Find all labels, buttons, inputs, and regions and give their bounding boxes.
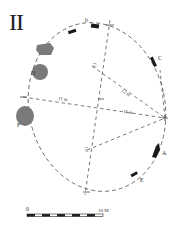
svg-text:E1: E1 [84, 146, 89, 153]
plan-drawing: b C D F A E 11 m 11 m 12 m E1 E1 0 10 M [0, 0, 181, 227]
stone-h [68, 29, 77, 34]
circle-outline [13, 10, 181, 205]
svg-text:C: C [158, 55, 162, 61]
svg-text:11 m: 11 m [123, 109, 133, 115]
svg-text:D: D [31, 70, 36, 76]
stone-g [36, 43, 54, 55]
slabs [68, 23, 160, 177]
stone-b [91, 23, 99, 28]
svg-text:11 m: 11 m [58, 96, 68, 102]
figure-title: II [9, 10, 23, 34]
scale-bar: 0 10 M [26, 206, 109, 217]
stone-e [130, 171, 138, 177]
svg-text:10 M: 10 M [98, 208, 109, 213]
svg-text:0: 0 [26, 206, 29, 212]
svg-text:b: b [85, 17, 88, 23]
stone-a [152, 143, 160, 158]
svg-text:E1: E1 [92, 62, 97, 69]
svg-text:E: E [140, 177, 144, 183]
stone-labels: b C D F A E [17, 17, 167, 183]
site-plan: II [0, 0, 181, 227]
boulders [16, 43, 54, 126]
svg-text:A: A [162, 150, 167, 156]
svg-text:12 m: 12 m [120, 88, 131, 98]
stone-c [150, 57, 157, 67]
